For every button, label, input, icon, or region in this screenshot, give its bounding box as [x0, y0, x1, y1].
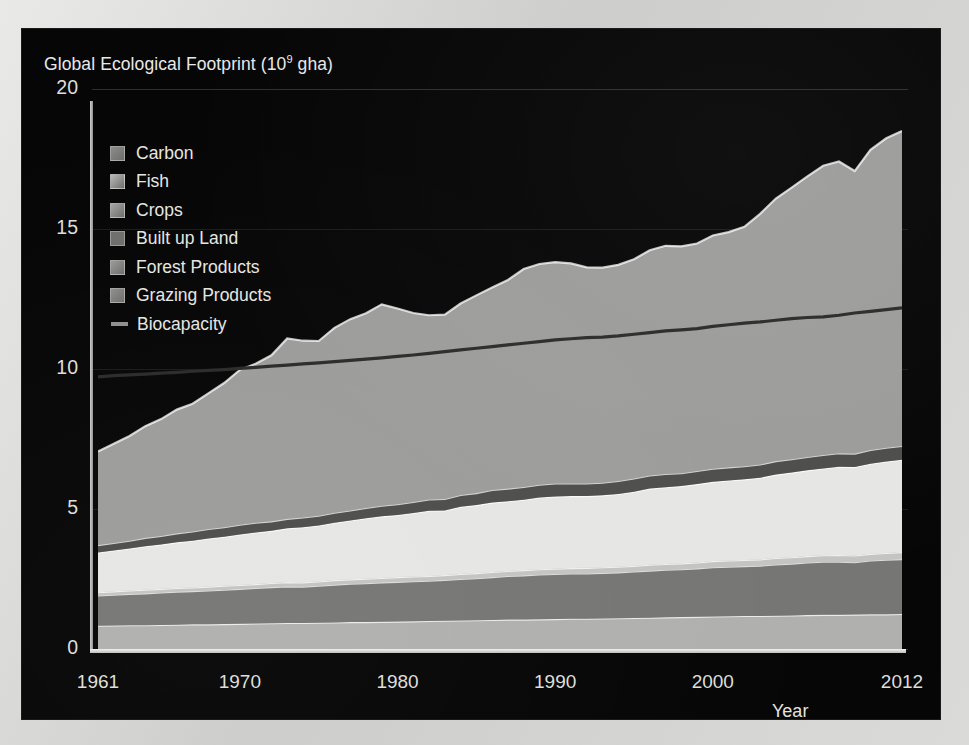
y-tick-20: 20 — [32, 76, 78, 99]
legend-item-carbon: Carbon — [110, 139, 271, 168]
legend-item-crops: Crops — [110, 196, 271, 225]
x-tick-1961: 1961 — [53, 671, 143, 693]
legend-swatch-square-icon — [110, 288, 125, 303]
legend-label: Carbon — [136, 143, 193, 164]
legend-label: Built up Land — [136, 228, 238, 249]
legend-label: Fish — [136, 171, 169, 192]
chart-title-tail: gha) — [293, 54, 333, 74]
screenshot-page: Global Ecological Footprint (109 gha) 05… — [0, 0, 969, 745]
legend-item-fish: Fish — [110, 168, 271, 197]
y-tick-0: 0 — [32, 636, 78, 659]
chart-title-base: Global Ecological Footprint (10 — [44, 54, 286, 74]
legend-swatch-square-icon — [110, 174, 125, 189]
x-tick-2012: 2012 — [857, 671, 940, 693]
x-tick-2000: 2000 — [668, 671, 758, 693]
legend-label: Forest Products — [136, 257, 260, 278]
chart-legend: CarbonFishCropsBuilt up LandForest Produ… — [110, 139, 271, 339]
y-axis-line — [90, 101, 93, 653]
legend-label: Biocapacity — [137, 314, 227, 335]
y-tick-5: 5 — [32, 496, 78, 519]
y-tick-15: 15 — [32, 216, 78, 239]
x-axis-line — [90, 649, 906, 653]
legend-label: Crops — [136, 200, 183, 221]
legend-swatch-square-icon — [110, 203, 125, 218]
legend-item-grazing-products: Grazing Products — [110, 282, 271, 311]
legend-item-biocapacity: Biocapacity — [110, 310, 271, 339]
legend-item-forest-products: Forest Products — [110, 253, 271, 282]
legend-label: Grazing Products — [136, 285, 271, 306]
x-axis-title: Year — [772, 701, 808, 719]
y-tick-10: 10 — [32, 356, 78, 379]
legend-swatch-square-icon — [110, 146, 125, 161]
x-tick-1990: 1990 — [510, 671, 600, 693]
legend-swatch-square-icon — [110, 260, 125, 275]
legend-item-built-up-land: Built up Land — [110, 225, 271, 254]
legend-swatch-line-icon — [111, 322, 128, 326]
legend-swatch-square-icon — [110, 231, 125, 246]
chart-title: Global Ecological Footprint (109 gha) — [44, 53, 333, 75]
chart-figure: Global Ecological Footprint (109 gha) 05… — [22, 29, 940, 719]
x-tick-1980: 1980 — [353, 671, 443, 693]
x-tick-1970: 1970 — [195, 671, 285, 693]
